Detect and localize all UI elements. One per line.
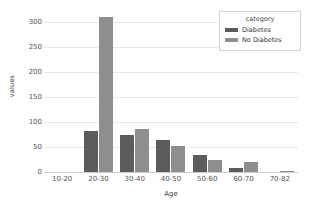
- bar[interactable]: [244, 162, 258, 173]
- bar[interactable]: [135, 129, 149, 173]
- legend-rows: DiabetesNo Diabetes: [225, 26, 295, 44]
- legend-item[interactable]: Diabetes: [225, 26, 295, 34]
- bar[interactable]: [99, 17, 113, 172]
- legend-label: Diabetes: [242, 26, 271, 34]
- legend-swatch-icon: [225, 28, 238, 32]
- bar[interactable]: [193, 155, 207, 173]
- y-axis-ticks: 050100150200250300: [0, 0, 42, 208]
- bar[interactable]: [208, 160, 222, 172]
- x-tick-label: 20-30: [80, 175, 116, 183]
- chart-legend: category DiabetesNo Diabetes: [219, 11, 301, 51]
- bar-group: [117, 12, 153, 172]
- bar[interactable]: [229, 168, 243, 173]
- legend-label: No Diabetes: [242, 36, 282, 44]
- x-tick-label: 40-50: [153, 175, 189, 183]
- bar[interactable]: [280, 171, 294, 173]
- bar[interactable]: [156, 140, 170, 172]
- y-tick-label: 250: [2, 43, 42, 51]
- chart-figure: 050100150200250300 values 10-2020-3030-4…: [0, 0, 309, 208]
- y-tick-label: 300: [2, 18, 42, 26]
- legend-swatch-icon: [225, 38, 238, 42]
- bar-group: [153, 12, 189, 172]
- legend-item[interactable]: No Diabetes: [225, 36, 295, 44]
- x-axis-line: [44, 172, 298, 173]
- x-tick-label: 50-60: [189, 175, 225, 183]
- x-axis-ticks: 10-2020-3030-4040-5050-6060-7070-82: [44, 175, 298, 183]
- x-axis-label: Age: [44, 190, 298, 198]
- legend-title: category: [225, 15, 295, 23]
- x-tick-label: 60-70: [225, 175, 261, 183]
- y-tick-label: 100: [2, 118, 42, 126]
- bar-group: [44, 12, 80, 172]
- y-tick-label: 50: [2, 143, 42, 151]
- bar-group: [80, 12, 116, 172]
- x-tick-label: 30-40: [117, 175, 153, 183]
- y-tick-label: 0: [2, 168, 42, 176]
- y-axis-label: values: [8, 56, 16, 116]
- x-tick-label: 70-82: [262, 175, 298, 183]
- x-tick-label: 10-20: [44, 175, 80, 183]
- bar[interactable]: [171, 146, 185, 172]
- bar[interactable]: [84, 131, 98, 172]
- bar[interactable]: [120, 135, 134, 173]
